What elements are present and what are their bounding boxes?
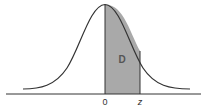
origin-label: 0 — [102, 97, 107, 107]
normal-curve-diagram: D 0 z — [0, 0, 211, 109]
z-label: z — [137, 97, 143, 107]
region-label: D — [118, 54, 125, 65]
shaded-region — [105, 5, 140, 95]
